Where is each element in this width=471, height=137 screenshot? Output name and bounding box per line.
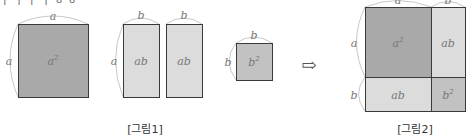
fig2-top-label-a: a [395,0,402,7]
figure2-caption: [그림2] [397,120,433,136]
cell-ab-bottom-label: ab [391,89,405,102]
fig2-side-label-b: b [350,89,357,102]
cell-a-squared-label: a2 [392,36,403,50]
ab1-height-label: a [111,55,118,68]
right-arrow-icon: ⇨ [301,54,316,75]
a-squared-width-label: a [50,10,57,23]
algebra-area-diagram: ㅏ ㅓ ㅏ ㅓ ㅎ ㅎ a2 a a ab b a ab b [0,0,471,137]
fig2-top-label-b: b [444,0,451,7]
cell-b-squared-label: b2 [442,88,454,102]
cell-ab-right-label: ab [441,37,455,50]
a-squared-height-label: a [6,55,13,68]
ab-label-2: ab [177,55,191,68]
ab2-width-label: b [180,9,187,22]
figure1-caption: [그림1] [127,120,163,136]
a-squared-label: a2 [47,54,58,68]
b-squared-width-label: b [250,29,257,42]
ab1-width-label: b [137,9,144,22]
fig2-side-label-a: a [351,37,358,50]
ab-label-1: ab [134,55,148,68]
b-squared-height-label: b [224,56,231,69]
b-squared-label: b2 [248,55,260,69]
